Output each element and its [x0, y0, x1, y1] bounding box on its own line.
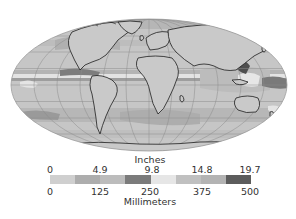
inch-tick-1: 4.9 [92, 164, 107, 175]
precipitation-world-map [0, 0, 296, 160]
legend-title-millimeters: Millimeters [124, 196, 176, 207]
mm-tick-0: 0 [47, 186, 53, 197]
colorbar-segment-4 [125, 175, 150, 184]
precipitation-colorbar [50, 175, 251, 184]
mm-tick-3: 375 [193, 186, 211, 197]
colorbar-segment-2 [75, 175, 100, 184]
colorbar-segment-6 [176, 175, 201, 184]
colorbar-segment-3 [100, 175, 125, 184]
colorbar-segment-8 [226, 175, 251, 184]
inch-tick-0: 0 [47, 164, 53, 175]
colorbar-segment-5 [151, 175, 176, 184]
map-content [0, 19, 296, 160]
inch-tick-4: 19.7 [239, 164, 260, 175]
colorbar-segment-1 [50, 175, 75, 184]
colorbar-segment-7 [201, 175, 226, 184]
mm-tick-1: 125 [91, 186, 109, 197]
inch-tick-2: 9.8 [144, 164, 159, 175]
inch-tick-3: 14.8 [191, 164, 212, 175]
mm-tick-4: 500 [241, 186, 259, 197]
australia [234, 96, 259, 113]
